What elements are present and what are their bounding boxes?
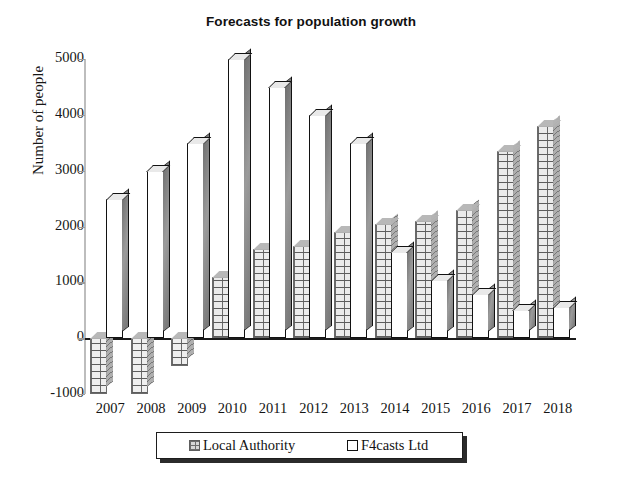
x-tick-label: 2008	[130, 400, 172, 417]
y-tick-mark	[78, 282, 85, 283]
bar-local-authority	[537, 126, 554, 338]
grey-brick-swatch-icon	[189, 440, 200, 451]
y-tick-label: 3000	[0, 161, 84, 178]
y-tick-mark	[78, 338, 85, 339]
y-tick-label: 0	[0, 328, 84, 345]
bar-side-face	[366, 132, 373, 331]
y-tick-label: 5000	[0, 49, 84, 66]
bar-side-face	[513, 141, 520, 332]
bar-f4casts-ltd	[472, 294, 489, 339]
bar-side-face	[407, 241, 414, 331]
bar-f4casts-ltd	[513, 310, 530, 338]
legend-label: F4casts Ltd	[361, 437, 428, 454]
chart-title: Forecasts for population growth	[0, 14, 622, 29]
bar-f4casts-ltd	[553, 307, 570, 338]
bar-local-authority	[171, 338, 188, 366]
bar-side-face	[325, 104, 332, 331]
x-tick-label: 2014	[374, 400, 416, 417]
bar-local-authority	[415, 221, 432, 338]
bar-local-authority	[334, 232, 351, 338]
x-tick-label: 2016	[455, 400, 497, 417]
bar-side-face	[244, 49, 251, 332]
plot-area: 500040003000200010000-1000	[88, 59, 576, 394]
bar-side-face	[553, 116, 560, 332]
bar-local-authority	[456, 210, 473, 338]
legend-label: Local Authority	[203, 437, 295, 454]
bar-group	[251, 59, 292, 394]
bar-side-face	[203, 132, 210, 331]
bar-local-authority	[375, 224, 392, 338]
y-tick-label: 2000	[0, 217, 84, 234]
x-tick-label: 2015	[415, 400, 457, 417]
bar-group	[88, 59, 129, 394]
bar-group	[129, 59, 170, 394]
y-tick-label: 1000	[0, 272, 84, 289]
bar-side-face	[285, 76, 292, 331]
y-tick-label: -1000	[0, 384, 84, 401]
bar-local-authority	[131, 338, 148, 394]
x-tick-label: 2009	[171, 400, 213, 417]
chart-legend: Local Authority F4casts Ltd	[156, 432, 463, 459]
x-tick-label: 2018	[537, 400, 579, 417]
bar-group	[291, 59, 332, 394]
bar-f4casts-ltd	[309, 115, 326, 338]
x-axis-tick-labels: 2007200820092010201120122013201420152016…	[88, 400, 580, 422]
bar-side-face	[122, 188, 129, 331]
bar-group	[169, 59, 210, 394]
bar-group	[210, 59, 251, 394]
legend-item-f4casts-ltd: F4casts Ltd	[347, 437, 428, 454]
bar-group	[495, 59, 536, 394]
bar-f4casts-ltd	[391, 252, 408, 339]
x-tick-label: 2011	[252, 400, 294, 417]
y-tick-label: 4000	[0, 105, 84, 122]
y-tick-mark	[78, 59, 85, 60]
bar-f4casts-ltd	[228, 59, 245, 338]
bar-f4casts-ltd	[269, 87, 286, 338]
x-tick-label: 2012	[293, 400, 335, 417]
bar-f4casts-ltd	[147, 171, 164, 339]
bar-f4casts-ltd	[106, 199, 123, 339]
bar-local-authority	[293, 246, 310, 338]
y-tick-mark	[78, 171, 85, 172]
bar-group	[535, 59, 576, 394]
bar-f4casts-ltd	[187, 143, 204, 338]
bar-local-authority	[90, 338, 107, 394]
bar-local-authority	[212, 277, 229, 338]
chart-container: Forecasts for population growth Number o…	[0, 0, 622, 491]
bar-f4casts-ltd	[350, 143, 367, 338]
bar-group	[454, 59, 495, 394]
bar-group	[332, 59, 373, 394]
legend-item-local-authority: Local Authority	[189, 437, 295, 454]
bar-local-authority	[253, 249, 270, 338]
bar-side-face	[163, 160, 170, 331]
y-tick-mark	[78, 115, 85, 116]
bar-group	[413, 59, 454, 394]
x-tick-label: 2017	[496, 400, 538, 417]
x-tick-label: 2007	[89, 400, 131, 417]
y-tick-mark	[78, 394, 85, 395]
white-swatch-icon	[347, 440, 358, 451]
x-tick-label: 2013	[333, 400, 375, 417]
bar-f4casts-ltd	[431, 280, 448, 339]
x-tick-label: 2010	[211, 400, 253, 417]
y-tick-mark	[78, 227, 85, 228]
bar-group	[373, 59, 414, 394]
